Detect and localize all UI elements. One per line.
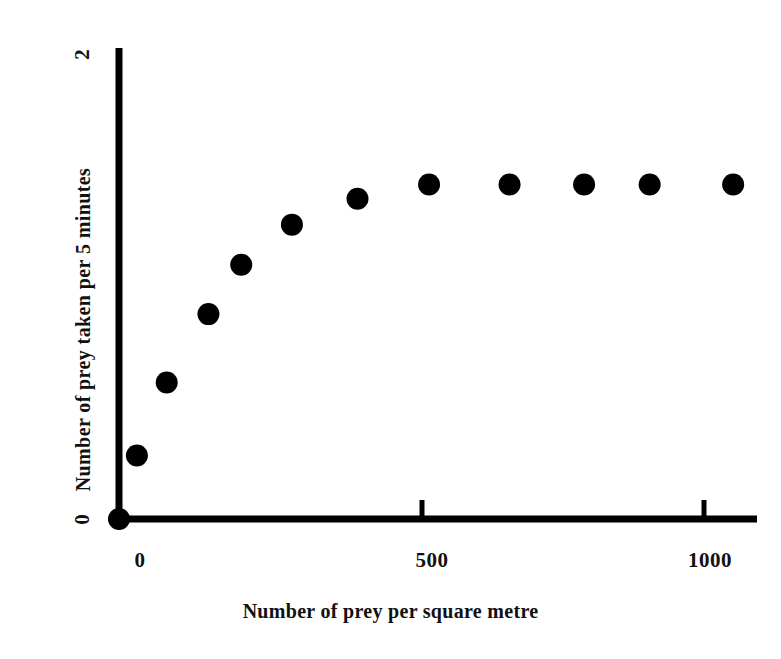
data-point [722,174,744,196]
data-point-group [108,174,744,530]
x-tick-label-1000: 1000 [688,548,732,573]
x-tick-label-0: 0 [135,548,146,573]
data-point [230,254,252,276]
data-point [281,214,303,236]
chart-figure: Number of prey taken per 5 minutes 2 0 0… [0,0,781,659]
y-tick-label-2: 2 [70,49,95,60]
plot-area [0,0,781,659]
data-point [639,174,661,196]
data-point [156,371,178,393]
data-point [499,174,521,196]
data-point [573,174,595,196]
data-point [126,444,148,466]
x-tick-label-500: 500 [416,548,449,573]
y-tick-label-0: 0 [70,514,95,525]
data-point [197,303,219,325]
x-axis-title: Number of prey per square metre [0,600,781,623]
data-point [418,174,440,196]
data-point [108,508,130,530]
data-point [347,188,369,210]
